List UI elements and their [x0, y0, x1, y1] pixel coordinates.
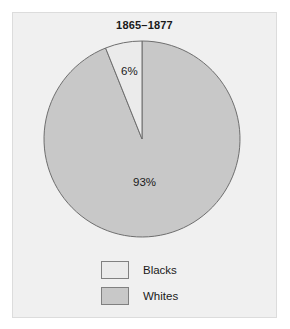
legend-item-whites[interactable]: Whites	[101, 284, 231, 308]
legend-label-blacks: Blacks	[143, 264, 177, 276]
legend-swatch-whites	[101, 287, 129, 305]
chart-legend: Blacks Whites	[101, 258, 231, 310]
chart-panel: 1865–1877 6% 93% Blacks Whites	[12, 12, 277, 318]
legend-swatch-blacks	[101, 261, 129, 279]
legend-label-whites: Whites	[143, 290, 178, 302]
legend-item-blacks[interactable]: Blacks	[101, 258, 231, 282]
pie-label-blacks: 6%	[121, 65, 138, 77]
pie-label-whites: 93%	[133, 176, 156, 188]
